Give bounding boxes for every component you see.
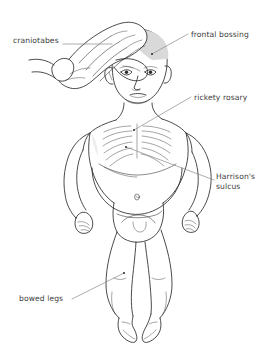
rickets-diagram: .ln { fill:none; stroke:#2b2b2b; stroke-…: [0, 0, 270, 360]
label-bowed-legs: bowed legs: [19, 294, 63, 304]
leader-bowed-legs: [72, 273, 124, 299]
label-harrisons-sulcus: Harrison's sulcus: [216, 172, 255, 191]
label-craniotabes: craniotabes: [13, 36, 59, 46]
label-rickety-rosary: rickety rosary: [194, 93, 247, 103]
label-frontal-bossing: frontal bossing: [191, 30, 249, 40]
